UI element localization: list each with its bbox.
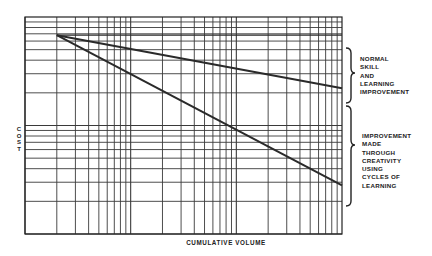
data-lines <box>57 35 342 185</box>
annotation-line: MADE <box>362 140 411 148</box>
annotation-line: LEARNING <box>360 80 409 88</box>
annotation-line: NORMAL <box>360 55 409 63</box>
y-axis-label: C O S T <box>15 126 23 152</box>
lower-annotation: IMPROVEMENT MADE THROUGH CREATIVITY USIN… <box>362 132 411 190</box>
annotation-line: SKILL <box>360 63 409 71</box>
log-grid <box>25 17 342 234</box>
annotation-line: IMPROVEMENT <box>360 88 409 96</box>
chart-canvas <box>0 0 432 256</box>
lower-brace <box>346 106 355 206</box>
annotation-line: CREATIVITY <box>362 157 411 165</box>
annotation-line: AND <box>360 72 409 80</box>
braces <box>346 48 355 206</box>
annotation-line: USING <box>362 165 411 173</box>
annotation-line: IMPROVEMENT <box>362 132 411 140</box>
annotation-line: THROUGH <box>362 149 411 157</box>
series-line-1 <box>57 35 342 88</box>
upper-annotation: NORMAL SKILL AND LEARNING IMPROVEMENT <box>360 55 409 96</box>
y-axis-letter: T <box>15 146 23 153</box>
annotation-line: LEARNING <box>362 182 411 190</box>
annotation-line: CYCLES OF <box>362 173 411 181</box>
upper-brace <box>346 48 355 103</box>
series-line-2 <box>57 35 342 185</box>
x-axis-label: CUMULATIVE VOLUME <box>0 239 432 246</box>
